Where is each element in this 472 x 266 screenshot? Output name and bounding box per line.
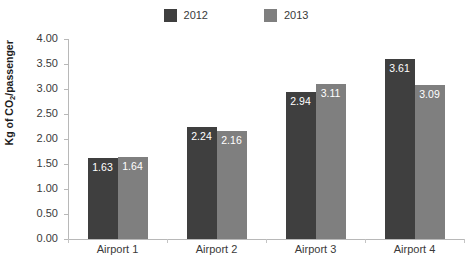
- bar-value-label: 2.94: [286, 95, 316, 107]
- bar-2012-airport-4[interactable]: 3.61: [385, 59, 415, 240]
- bar-group: 2.242.16: [167, 39, 266, 239]
- bar-value-label: 1.64: [118, 160, 148, 172]
- x-tick-label: Airport 1: [68, 243, 167, 256]
- legend-item-2013[interactable]: 2013: [264, 9, 308, 22]
- bar-chart: 2012 2013 Kg of CO2/passenger 4.003.503.…: [0, 0, 472, 266]
- bar-pair: 2.943.11: [286, 39, 346, 239]
- bar-pair: 1.631.64: [88, 39, 148, 239]
- y-axis-title-subscript: 2: [8, 96, 17, 100]
- bar-value-label: 3.11: [316, 87, 346, 99]
- bar-value-label: 2.24: [187, 130, 217, 142]
- bar-pair: 3.613.09: [385, 39, 445, 239]
- bar-value-label: 3.09: [415, 88, 445, 100]
- bar-value-label: 2.16: [217, 134, 247, 146]
- x-tick-label: Airport 2: [167, 243, 266, 256]
- y-tick-label: 0.50: [12, 208, 58, 219]
- bar-groups: 1.631.642.242.162.943.113.613.09: [68, 39, 464, 239]
- legend-swatch-2012: [164, 9, 177, 22]
- y-tick-label: 1.50: [12, 158, 58, 169]
- bar-2012-airport-3[interactable]: 2.94: [286, 92, 316, 239]
- bar-2013-airport-2[interactable]: 2.16: [217, 131, 247, 239]
- x-tick-label: Airport 3: [266, 243, 365, 256]
- y-tick-label: 3.50: [12, 58, 58, 69]
- legend-label-2013: 2013: [284, 9, 308, 22]
- legend-swatch-2013: [264, 9, 277, 22]
- bar-group: 3.613.09: [365, 39, 464, 239]
- x-tick-label: Airport 4: [365, 243, 464, 256]
- legend-label-2012: 2012: [184, 9, 208, 22]
- bar-2012-airport-2[interactable]: 2.24: [187, 127, 217, 239]
- y-tick-label: 0.00: [12, 233, 58, 244]
- chart-legend: 2012 2013: [0, 9, 472, 22]
- bar-2013-airport-3[interactable]: 3.11: [316, 84, 346, 240]
- y-tick-label: 2.00: [12, 133, 58, 144]
- legend-item-2012[interactable]: 2012: [164, 9, 208, 22]
- y-axis-title: Kg of CO2/passenger: [3, 13, 17, 173]
- bar-pair: 2.242.16: [187, 39, 247, 239]
- y-tick-label: 2.50: [12, 108, 58, 119]
- y-axis-title-pre: Kg of CO: [3, 100, 15, 146]
- y-tick-label: 3.00: [12, 83, 58, 94]
- x-axis-labels: Airport 1Airport 2Airport 3Airport 4: [68, 243, 464, 256]
- y-tick-label: 1.00: [12, 183, 58, 194]
- bar-2013-airport-4[interactable]: 3.09: [415, 85, 445, 240]
- y-tick-label: 4.00: [12, 33, 58, 44]
- bar-group: 1.631.64: [68, 39, 167, 239]
- bar-value-label: 1.63: [88, 161, 118, 173]
- bar-group: 2.943.11: [266, 39, 365, 239]
- x-tick-mark: [464, 239, 465, 243]
- y-axis-title-post: /passenger: [3, 40, 15, 95]
- bar-2012-airport-1[interactable]: 1.63: [88, 158, 118, 240]
- bar-value-label: 3.61: [385, 62, 415, 74]
- bar-2013-airport-1[interactable]: 1.64: [118, 157, 148, 239]
